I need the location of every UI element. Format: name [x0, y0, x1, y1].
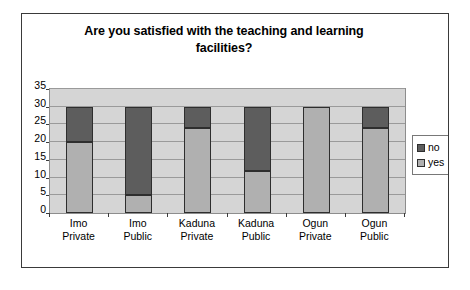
y-axis-tick-label: 30 — [22, 98, 46, 108]
bar-group — [66, 89, 93, 213]
x-axis-tick-label-line: Private — [286, 230, 344, 243]
gridline — [50, 159, 405, 160]
gridline — [50, 106, 405, 107]
gridline — [50, 88, 405, 89]
x-axis-tick-mark — [49, 213, 50, 217]
legend-item-label: yes — [428, 157, 444, 168]
x-axis: ImoPrivateImoPublicKadunaPrivateKadunaPu… — [49, 217, 406, 255]
chart-figure: Are you satisfied with the teaching and … — [21, 13, 449, 268]
x-axis-tick-label: OgunPrivate — [286, 217, 344, 243]
x-axis-tick-label: OgunPublic — [345, 217, 403, 243]
bar-segment-no — [184, 107, 211, 128]
bar-segment-no — [66, 107, 93, 142]
x-axis-tick-label-line: Private — [168, 230, 226, 243]
x-axis-tick-label-line: Imo — [109, 217, 167, 230]
chart-title-line-1: Are you satisfied with the teaching and … — [84, 24, 363, 38]
y-axis-tick-label: 5 — [22, 186, 46, 196]
bar-segment-no — [125, 107, 152, 196]
legend-swatch-icon — [417, 159, 425, 167]
legend-item-label: no — [428, 142, 440, 153]
x-axis-tick-label-line: Private — [50, 230, 108, 243]
x-axis-tick-label-line: Public — [109, 230, 167, 243]
bar-segment-no — [244, 107, 271, 171]
bar-segment-yes — [362, 128, 389, 213]
x-axis-tick-mark — [404, 213, 405, 217]
plot-area — [49, 88, 406, 214]
x-axis-tick-label: ImoPrivate — [50, 217, 108, 243]
x-axis-tick-label-line: Kaduna — [227, 217, 285, 230]
bar-group — [303, 89, 330, 213]
x-axis-tick-label-line: Imo — [50, 217, 108, 230]
x-axis-tick-label: KadunaPrivate — [168, 217, 226, 243]
bar-segment-yes — [244, 171, 271, 214]
bar-segment-yes — [125, 195, 152, 213]
y-axis-tick-label: 20 — [22, 133, 46, 143]
legend-swatch-icon — [417, 144, 425, 152]
gridline — [50, 141, 405, 142]
bar-group — [184, 89, 211, 213]
bar-group — [244, 89, 271, 213]
y-axis: 05101520253035 — [22, 88, 46, 214]
y-axis-tick-label: 0 — [22, 204, 46, 214]
gridline — [50, 177, 405, 178]
legend-item-no[interactable]: no — [417, 140, 446, 155]
x-axis-tick-label: ImoPublic — [109, 217, 167, 243]
x-axis-tick-label-line: Public — [345, 230, 403, 243]
bar-group — [362, 89, 389, 213]
gridline — [50, 194, 405, 195]
x-axis-tick-label: KadunaPublic — [227, 217, 285, 243]
bar-segment-yes — [66, 142, 93, 213]
bar-segment-yes — [303, 107, 330, 213]
y-axis-tick-label: 35 — [22, 80, 46, 90]
x-axis-tick-label-line: Public — [227, 230, 285, 243]
bar-group — [125, 89, 152, 213]
chart-title: Are you satisfied with the teaching and … — [46, 23, 402, 57]
bar-segment-no — [362, 107, 389, 128]
x-axis-tick-label-line: Ogun — [286, 217, 344, 230]
x-axis-tick-label-line: Ogun — [345, 217, 403, 230]
gridline — [50, 123, 405, 124]
legend-item-yes[interactable]: yes — [417, 155, 446, 170]
y-axis-tick-label: 10 — [22, 169, 46, 179]
y-axis-tick-label: 15 — [22, 151, 46, 161]
chart-legend: noyes — [412, 135, 449, 175]
y-axis-tick-label: 25 — [22, 115, 46, 125]
bar-segment-yes — [184, 128, 211, 213]
chart-title-line-2: facilities? — [196, 41, 253, 55]
x-axis-tick-label-line: Kaduna — [168, 217, 226, 230]
